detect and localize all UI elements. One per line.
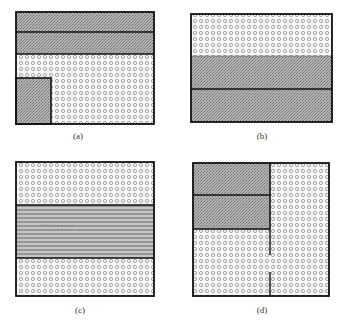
panel-d xyxy=(193,163,329,296)
panel-a-top-strip-1 xyxy=(16,12,154,32)
panel-b-top-band xyxy=(191,14,332,56)
layout-diagram xyxy=(0,0,340,324)
panel-c-middle-band xyxy=(16,205,154,258)
panel-b-middle-band xyxy=(191,56,332,89)
panel-c-label: (c) xyxy=(75,305,85,315)
panel-d-upper-left-block-1 xyxy=(193,163,270,195)
panel-d-lower-left-area xyxy=(193,229,270,296)
panel-c-top-band xyxy=(16,162,154,205)
panel-d-right-column xyxy=(270,163,329,296)
panel-a-corner-block xyxy=(16,78,51,124)
panel-c-bottom-band xyxy=(16,258,154,296)
panel-d-label: (d) xyxy=(257,305,268,315)
panel-a-top-strip-2 xyxy=(16,32,154,54)
panel-b-label: (b) xyxy=(257,131,268,141)
panel-a-label: (a) xyxy=(73,131,83,141)
panel-d-upper-left-block-2 xyxy=(193,195,270,229)
panel-b-bottom-band xyxy=(191,89,332,122)
panel-c xyxy=(16,162,154,296)
panel-a xyxy=(16,12,154,124)
panel-b xyxy=(191,14,332,122)
